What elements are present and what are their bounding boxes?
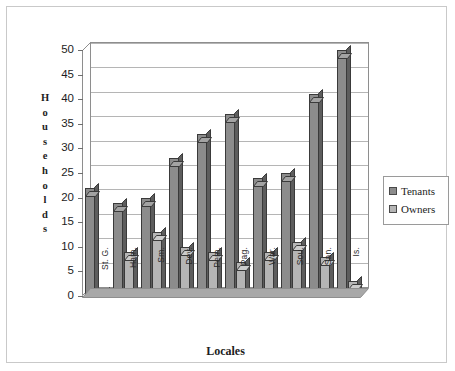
y-tick-mark: [78, 296, 83, 297]
bar-tenants-0: [85, 188, 95, 296]
bar-top-face: [253, 173, 268, 179]
y-tick-label-30: 30: [44, 141, 74, 153]
y-tick-mark: [78, 99, 83, 100]
bar-top-face: [152, 227, 167, 233]
y-tick-label-15: 15: [44, 215, 74, 227]
legend-item-owners: Owners: [389, 200, 444, 218]
legend-item-tenants: Tenants: [389, 182, 444, 200]
y-tick-label-0: 0: [44, 289, 74, 301]
bar-top-face: [169, 153, 184, 159]
legend-label-owners: Owners: [401, 203, 435, 215]
gridline: [91, 43, 368, 44]
y-tick-label-45: 45: [44, 68, 74, 80]
y-tick-mark: [78, 50, 83, 51]
y-tick-label-20: 20: [44, 191, 74, 203]
y-tick-mark: [78, 148, 83, 149]
y-tick-label-25: 25: [44, 166, 74, 178]
bar-top-face: [141, 193, 156, 199]
bar-top-face: [113, 198, 128, 204]
bar-top-face: [281, 168, 296, 174]
bar-top-face: [309, 89, 324, 95]
legend-swatch-owners: [389, 205, 397, 213]
y-tick-mark: [78, 247, 83, 248]
chart-frame: Households Locales Tenants Owners 504540…: [6, 6, 447, 363]
y-tick-mark: [78, 198, 83, 199]
chart-legend: Tenants Owners: [383, 176, 449, 225]
y-tick-mark: [78, 173, 83, 174]
y-tick-label-50: 50: [44, 43, 74, 55]
y-tick-mark: [78, 75, 83, 76]
legend-label-tenants: Tenants: [401, 185, 435, 197]
y-tick-label-10: 10: [44, 240, 74, 252]
bar-top-face: [337, 45, 352, 51]
y-tick-label-5: 5: [44, 264, 74, 276]
x-axis-title: Locales: [82, 344, 369, 359]
x-tick-label-9: Is.: [351, 247, 397, 303]
bar-top-face: [197, 129, 212, 135]
y-tick-mark: [78, 222, 83, 223]
y-tick-label-35: 35: [44, 117, 74, 129]
y-tick-label-40: 40: [44, 92, 74, 104]
bar-front-face: [85, 188, 95, 296]
y-tick-mark: [78, 124, 83, 125]
bar-top-face: [85, 183, 100, 189]
bar-top-face: [292, 237, 307, 243]
bar-top-face: [225, 109, 240, 115]
y-tick-mark: [78, 271, 83, 272]
legend-swatch-tenants: [389, 187, 397, 195]
